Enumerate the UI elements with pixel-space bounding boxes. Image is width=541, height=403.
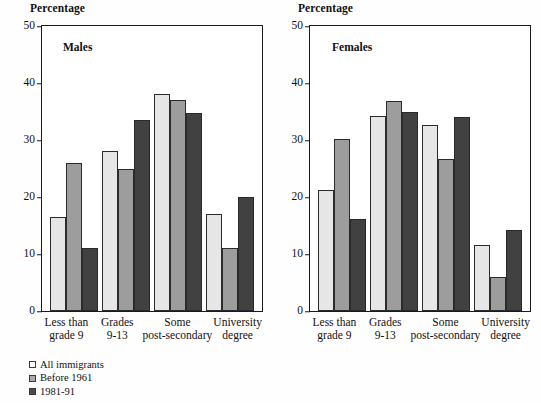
y-tick-20-females: 20 (292, 191, 311, 203)
bar-1-2-2 (454, 117, 470, 311)
bar-1-3-2 (506, 230, 522, 311)
y-axis-title-females: Percentage (298, 2, 353, 14)
legend-swatch-icon-1 (29, 375, 36, 382)
bar-group (152, 26, 204, 311)
y-tick-30-females: 30 (292, 134, 311, 146)
bar-0-1-1 (118, 169, 134, 312)
chart-legend: All immigrantsBefore 19611981-91 (29, 358, 104, 398)
x-label-0: Less thangrade 9 (309, 316, 360, 342)
bar-group (100, 26, 152, 311)
bar-1-2-1 (438, 159, 454, 311)
legend-label-1: Before 1961 (40, 371, 92, 384)
bar-1-0-1 (334, 139, 350, 311)
bar-0-3-2 (238, 197, 254, 311)
plot-area-males: Males 50 40 30 20 10 0 (41, 25, 263, 312)
bar-0-3-0 (206, 214, 222, 311)
y-tick-10-females: 10 (292, 248, 311, 260)
bar-groups-males (42, 26, 262, 311)
legend-item-0: All immigrants (29, 358, 104, 371)
bar-1-1-2 (402, 112, 418, 311)
legend-item-2: 1981-91 (29, 385, 104, 398)
bar-0-3-1 (222, 248, 238, 311)
legend-swatch-icon-0 (29, 361, 36, 368)
x-label-3: Universitydegree (480, 316, 531, 342)
bar-0-1-2 (134, 120, 150, 311)
x-label-1: Grades9-13 (360, 316, 411, 342)
y-tick-30-males: 30 (24, 134, 43, 146)
bar-0-0-2 (82, 248, 98, 311)
y-tick-10-males: 10 (24, 248, 43, 260)
bar-1-0-0 (318, 190, 334, 311)
bar-0-0-0 (50, 217, 66, 311)
y-axis-title-males: Percentage (30, 2, 85, 14)
bar-0-2-2 (186, 113, 202, 311)
x-label-3: Universitydegree (212, 316, 263, 342)
bar-1-1-1 (386, 101, 402, 311)
bar-0-2-0 (154, 94, 170, 311)
x-label-1: Grades9-13 (92, 316, 143, 342)
bar-group (316, 26, 368, 311)
y-tick-50-males: 50 (24, 20, 43, 32)
bar-groups-females (310, 26, 530, 311)
x-axis-labels-males: Less thangrade 9Grades9-13Somepost-secon… (41, 316, 263, 342)
bar-group (420, 26, 472, 311)
bar-group (48, 26, 100, 311)
bar-group (204, 26, 256, 311)
legend-swatch-icon-2 (29, 388, 36, 395)
bar-1-3-0 (474, 245, 490, 311)
y-tick-50-females: 50 (292, 20, 311, 32)
bar-1-0-2 (350, 219, 366, 311)
y-tick-40-males: 40 (24, 77, 43, 89)
chart-panel-females: Percentage Females 50 40 30 20 10 0 Less… (270, 0, 541, 360)
x-label-2: Somepost-secondary (143, 316, 213, 342)
bar-group (472, 26, 524, 311)
bar-1-1-0 (370, 116, 386, 311)
legend-item-1: Before 1961 (29, 371, 104, 384)
bar-0-1-0 (102, 151, 118, 311)
immigrant-education-bar-chart-figure: Percentage Males 50 40 30 20 10 0 Less t… (0, 0, 541, 403)
plot-area-females: Females 50 40 30 20 10 0 (309, 25, 531, 312)
bar-0-0-1 (66, 163, 82, 311)
legend-label-2: 1981-91 (40, 385, 75, 398)
y-tick-20-males: 20 (24, 191, 43, 203)
bar-0-2-1 (170, 100, 186, 311)
x-label-2: Somepost-secondary (411, 316, 481, 342)
chart-panel-males: Percentage Males 50 40 30 20 10 0 Less t… (0, 0, 271, 360)
x-axis-labels-females: Less thangrade 9Grades9-13Somepost-secon… (309, 316, 531, 342)
bar-1-2-0 (422, 125, 438, 311)
x-label-0: Less thangrade 9 (41, 316, 92, 342)
y-tick-40-females: 40 (292, 77, 311, 89)
bar-1-3-1 (490, 277, 506, 311)
legend-label-0: All immigrants (40, 358, 104, 371)
bar-group (368, 26, 420, 311)
